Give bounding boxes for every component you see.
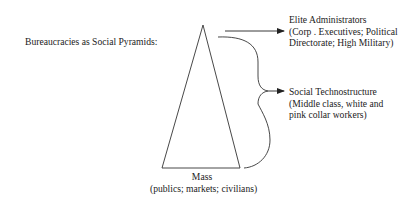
mass-label: Mass (publics; markets; civilians): [150, 171, 254, 194]
mass-label-line: (publics; markets; civilians): [150, 183, 254, 195]
elite-label-line: Elite Administrators: [289, 14, 398, 26]
technostructure-label: Social Technostructure (Middle class, wh…: [289, 86, 383, 121]
elite-label-line: Directorate; High Military): [289, 37, 398, 49]
elite-label: Elite Administrators (Corp . Executives;…: [289, 14, 398, 49]
pyramid-triangle: [162, 25, 240, 168]
techno-label-line: (Middle class, white and: [289, 98, 383, 110]
techno-label-line: pink collar workers): [289, 109, 383, 121]
technostructure-brace: [218, 37, 270, 168]
techno-label-line: Social Technostructure: [289, 86, 383, 98]
mass-label-line: Mass: [150, 171, 254, 183]
elite-label-line: (Corp . Executives; Political: [289, 26, 398, 38]
diagram-title: Bureaucracies as Social Pyramids:: [25, 36, 157, 48]
